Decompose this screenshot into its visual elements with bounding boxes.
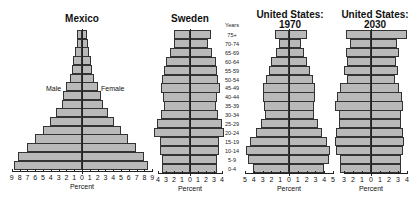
mexico-tick: [137, 169, 138, 172]
us2030-tick: [380, 171, 381, 174]
sweden-tick: [206, 171, 207, 174]
us1970-tick: [245, 171, 246, 174]
us1970-tick: [333, 171, 334, 174]
mexico-tick: [27, 169, 28, 172]
male-label: Male: [46, 85, 61, 92]
age-group-label: 45-49: [218, 85, 246, 91]
age-group-label: 50-54: [218, 77, 246, 83]
us1970-tick: [307, 171, 308, 174]
age-group-label: 70-74: [218, 41, 246, 47]
sweden-tick: [222, 171, 223, 174]
us1970-tick: [289, 171, 290, 174]
mexico-tick: [43, 169, 44, 172]
mexico-tick: [20, 169, 21, 172]
age-group-label: 10-14: [218, 148, 246, 154]
age-group-label: 60-64: [218, 59, 246, 65]
mexico-tick: [12, 169, 13, 172]
us1970-tick: [271, 171, 272, 174]
mexico-bar-female: [82, 161, 148, 170]
age-group-label: 15-19: [218, 139, 246, 145]
sweden-tick-label: 4: [217, 176, 227, 183]
mexico-tick: [74, 169, 75, 172]
us2030-bar-female: [371, 164, 401, 173]
sweden-x-axis-label: Percent: [170, 185, 210, 192]
us1970-tick: [254, 171, 255, 174]
mexico-tick: [98, 169, 99, 172]
us2030-title: United States: 2030: [340, 10, 410, 30]
us2030-tick: [407, 171, 408, 174]
mexico-tick: [35, 169, 36, 172]
mexico-x-axis-label: Percent: [62, 183, 102, 190]
mexico-tick: [82, 169, 83, 172]
age-group-label: 25-29: [218, 121, 246, 127]
us2030-tick: [353, 171, 354, 174]
us1970-title: United States: 1970: [255, 10, 325, 30]
us1970-tick-label: 5: [328, 176, 338, 183]
age-group-label: 35-39: [218, 103, 246, 109]
us2030-tick: [344, 171, 345, 174]
age-group-label: 65-69: [218, 50, 246, 56]
age-group-label: 75+: [218, 32, 246, 38]
age-group-label: 20-24: [218, 130, 246, 136]
mexico-title: Mexico: [52, 14, 112, 24]
mexico-tick: [144, 169, 145, 172]
us2030-tick: [371, 171, 372, 174]
us1970-tick: [280, 171, 281, 174]
age-group-label: 40-44: [218, 94, 246, 100]
female-label: Female: [101, 85, 124, 92]
us1970-x-axis-label: Percent: [269, 185, 309, 192]
mexico-tick: [121, 169, 122, 172]
us2030-tick-label: 4: [402, 176, 412, 183]
age-group-label: 30-34: [218, 112, 246, 118]
mexico-tick: [152, 169, 153, 172]
sweden-title: Sweden: [160, 14, 220, 24]
mexico-center-line: [82, 29, 83, 174]
mexico-tick: [51, 169, 52, 172]
sweden-tick: [174, 171, 175, 174]
sweden-tick: [158, 171, 159, 174]
mexico-tick: [105, 169, 106, 172]
mexico-tick: [59, 169, 60, 172]
sweden-center-line: [190, 29, 191, 176]
age-group-label: 5-9: [218, 157, 246, 163]
mexico-tick: [129, 169, 130, 172]
us2030-center-line: [371, 29, 372, 176]
us2030-title-line2: 2030: [364, 19, 386, 30]
mexico-tick: [113, 169, 114, 172]
years-label: Years: [218, 22, 246, 28]
us2030-tick: [389, 171, 390, 174]
sweden-tick: [214, 171, 215, 174]
mexico-bar-male: [14, 161, 82, 170]
sweden-tick: [198, 171, 199, 174]
us1970-tick: [263, 171, 264, 174]
us1970-tick: [315, 171, 316, 174]
us2030-tick: [398, 171, 399, 174]
us2030-tick: [362, 171, 363, 174]
us1970-center-line: [289, 29, 290, 176]
mexico-tick: [90, 169, 91, 172]
sweden-tick: [182, 171, 183, 174]
us1970-tick: [324, 171, 325, 174]
mexico-tick: [66, 169, 67, 172]
sweden-tick: [190, 171, 191, 174]
us1970-tick: [298, 171, 299, 174]
age-group-label: 55-59: [218, 68, 246, 74]
sweden-tick: [166, 171, 167, 174]
us1970-title-line2: 1970: [279, 19, 301, 30]
us2030-x-axis-label: Percent: [351, 185, 391, 192]
